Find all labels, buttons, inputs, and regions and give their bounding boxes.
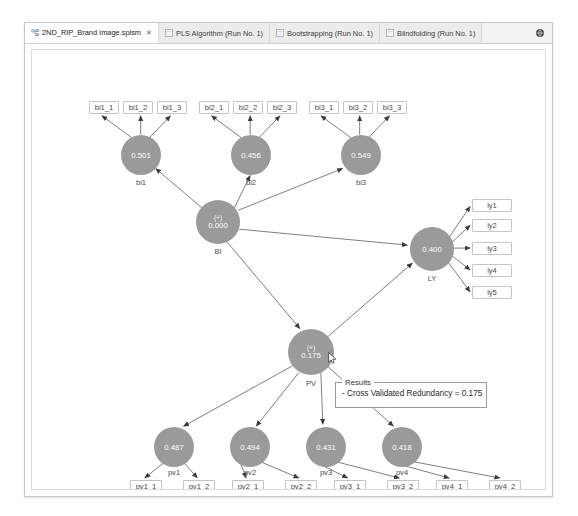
latent-label-bi2: bi2 — [231, 178, 271, 187]
results-line: - Cross Validated Redundancy = 0.175 — [342, 388, 479, 399]
latent-label-bi1: bi1 — [121, 178, 161, 187]
latent-node-pv1[interactable]: 0.487 — [154, 427, 194, 467]
results-tooltip: Results - Cross Validated Redundancy = 0… — [335, 382, 487, 408]
latent-node-ly[interactable]: 0.400 — [410, 227, 454, 271]
latent-value: 0.000 — [208, 221, 228, 230]
indicator-box[interactable]: ly2 — [472, 219, 512, 232]
close-icon[interactable]: ✕ — [146, 29, 152, 37]
results-legend-label: Results — [342, 378, 374, 387]
tab-bootstrapping[interactable]: Bootstrapping (Run No. 1) — [270, 23, 380, 43]
indicator-box[interactable]: bi1_1 — [89, 101, 119, 114]
indicator-box[interactable]: pv3_1 — [334, 480, 366, 490]
indicator-box[interactable]: bi3_1 — [309, 101, 339, 114]
indicator-box[interactable]: pv2_2 — [285, 480, 317, 490]
latent-label-bi3: bi3 — [341, 178, 381, 187]
latent-label-pv4: pv4 — [382, 468, 422, 477]
indicator-box[interactable]: bi2_2 — [233, 101, 263, 114]
indicator-box[interactable]: pv2_1 — [232, 480, 264, 490]
tab-label: 2ND_RIP_Brand Image.splsm — [42, 28, 141, 37]
report-icon — [386, 29, 394, 37]
latent-node-pv3[interactable]: 0.431 — [306, 427, 346, 467]
model-canvas[interactable]: bi1_1 bi1_2 bi1_3 bi2_1 bi2_2 bi2_3 bi3_… — [31, 49, 546, 490]
latent-plus-sign: (+) — [307, 344, 315, 351]
indicator-box[interactable]: bi1_2 — [123, 101, 153, 114]
latent-node-bi3[interactable]: 0.549 — [341, 135, 381, 175]
latent-node-bi1[interactable]: 0.501 — [121, 135, 161, 175]
latent-label-pv3: pv3 — [306, 468, 346, 477]
latent-plus-sign: (+) — [214, 214, 222, 221]
indicator-box[interactable]: bi2_1 — [199, 101, 229, 114]
latent-value: 0.501 — [131, 151, 151, 160]
indicator-box[interactable]: pv1_1 — [130, 480, 162, 490]
latent-value: 0.175 — [301, 351, 321, 360]
latent-node-bi[interactable]: (+) 0.000 — [196, 200, 240, 244]
tab-pls-algorithm[interactable]: PLS Algorithm (Run No. 1) — [159, 23, 270, 43]
latent-node-bi2[interactable]: 0.456 — [231, 135, 271, 175]
latent-value: 0.418 — [392, 443, 412, 452]
latent-label-pv2: pv2 — [230, 468, 270, 477]
indicator-box[interactable]: ly3 — [472, 242, 512, 255]
indicator-box[interactable]: pv1_2 — [183, 480, 215, 490]
globe-icon[interactable] — [528, 23, 552, 43]
indicator-box[interactable]: bi3_2 — [343, 101, 373, 114]
latent-label-pv: PV — [288, 379, 334, 388]
indicator-box[interactable]: pv3_2 — [387, 480, 419, 490]
model-file-icon — [31, 29, 39, 37]
indicator-box[interactable]: ly4 — [472, 264, 512, 277]
latent-value: 0.487 — [164, 443, 184, 452]
report-icon — [276, 29, 284, 37]
latent-value: 0.456 — [241, 151, 261, 160]
report-icon — [165, 29, 173, 37]
tab-bar: 2ND_RIP_Brand Image.splsm ✕ PLS Algorith… — [25, 23, 552, 44]
latent-value: 0.400 — [422, 245, 442, 254]
indicator-box[interactable]: bi1_3 — [157, 101, 187, 114]
latent-node-pv4[interactable]: 0.418 — [382, 427, 422, 467]
indicator-box[interactable]: bi3_3 — [377, 101, 407, 114]
indicator-box[interactable]: pv4_1 — [436, 480, 468, 490]
latent-label-pv1: pv1 — [154, 468, 194, 477]
tab-label: Bootstrapping (Run No. 1) — [287, 29, 373, 38]
application-window: 2ND_RIP_Brand Image.splsm ✕ PLS Algorith… — [24, 22, 553, 497]
latent-value: 0.431 — [316, 443, 336, 452]
latent-value: 0.549 — [351, 151, 371, 160]
indicator-box[interactable]: bi2_3 — [267, 101, 297, 114]
tab-model-editor[interactable]: 2ND_RIP_Brand Image.splsm ✕ — [25, 23, 159, 43]
latent-node-pv2[interactable]: 0.494 — [230, 427, 270, 467]
indicator-box[interactable]: ly5 — [472, 286, 512, 299]
tab-bar-spacer — [482, 23, 528, 43]
indicator-box[interactable]: ly1 — [472, 199, 512, 212]
mouse-cursor-icon — [328, 350, 337, 362]
tab-label: Blindfolding (Run No. 1) — [397, 29, 475, 38]
tab-blindfolding[interactable]: Blindfolding (Run No. 1) — [380, 23, 482, 43]
latent-label-ly: LY — [410, 274, 454, 283]
latent-label-bi: BI — [196, 247, 240, 256]
indicator-box[interactable]: pv4_2 — [489, 480, 521, 490]
latent-value: 0.494 — [240, 443, 260, 452]
path-diagram-edges — [32, 50, 545, 489]
tab-label: PLS Algorithm (Run No. 1) — [176, 29, 263, 38]
